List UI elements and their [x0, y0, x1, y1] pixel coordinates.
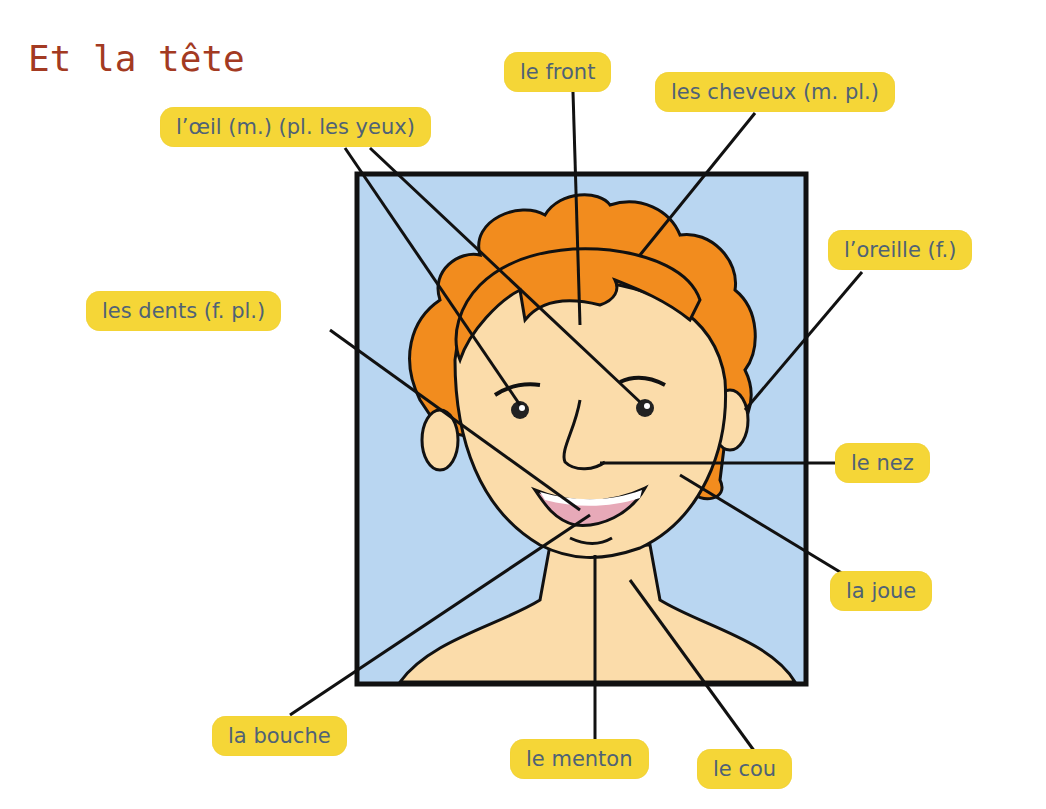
label-les-dents: les dents (f. pl.)	[86, 291, 281, 331]
label-le-cou: le cou	[697, 749, 792, 789]
label-la-joue: la joue	[830, 571, 932, 611]
face-illustration	[0, 0, 1046, 809]
label-le-menton: le menton	[510, 739, 649, 779]
label-l-oreille: l’oreille (f.)	[828, 230, 972, 270]
label-le-nez: le nez	[835, 443, 930, 483]
label-la-bouche: la bouche	[212, 716, 347, 756]
label-les-cheveux: les cheveux (m. pl.)	[655, 72, 895, 112]
label-le-front: le front	[504, 52, 611, 92]
label-l-oeil: l’œil (m.) (pl. les yeux)	[160, 107, 431, 147]
